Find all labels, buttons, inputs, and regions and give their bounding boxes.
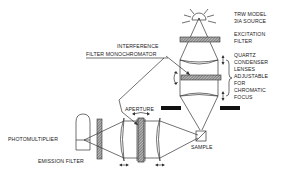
- interference-filter-lower-icon: [138, 118, 144, 162]
- excitation-filter-label: EXCITATION: [234, 31, 266, 37]
- tilt-arrow-icon: [174, 72, 176, 84]
- emission-filter-icon: [97, 119, 102, 159]
- brace-icon: [226, 60, 232, 96]
- lens-adjust-arrow-icon: [222, 55, 225, 101]
- source-label-2: 3IA SOURCE: [234, 18, 267, 24]
- excitation-filter-icon: [180, 37, 220, 42]
- photomultiplier-label: PHOTOMULTIPLIER: [8, 136, 58, 142]
- aperture-block-left-icon: [161, 106, 181, 110]
- interference-label-1: INTERFERENCE: [117, 43, 159, 49]
- lower-condenser-lens-icon: [180, 93, 218, 96]
- quartz-label-1: QUARTZ: [234, 52, 256, 58]
- quartz-label-4: ADJUSTABLE: [234, 73, 268, 79]
- quartz-label-6: CHROMATIC: [234, 87, 266, 93]
- filter-slide-arrow-icon: [132, 112, 150, 116]
- quartz-label-5: FOR: [234, 80, 245, 86]
- lens-adjust-arrow-icon: [119, 164, 129, 167]
- upper-condenser-lens-icon: [180, 60, 218, 64]
- quartz-label-2: CONDENSER: [234, 59, 268, 65]
- excitation-filter-label-2: FILTER: [234, 38, 252, 44]
- interference-filter-upper-icon: [181, 75, 221, 80]
- photomultiplier-icon: [76, 114, 90, 150]
- emission-lens-right-icon: [157, 118, 161, 161]
- quartz-label-3: LENSES: [234, 66, 256, 72]
- emission-lens-left-icon: [121, 118, 125, 161]
- source-label: TRW MODEL: [234, 11, 267, 17]
- optical-setup-diagram: TRW MODEL 3IA SOURCE EXCITATION FILTER Q…: [0, 0, 282, 176]
- lens-adjust-arrow-icon: [155, 164, 165, 167]
- aperture-label: APERTURE: [125, 106, 154, 112]
- aperture-block-right-icon: [220, 106, 240, 110]
- quartz-label-7: FOCUS: [234, 94, 253, 100]
- emission-filter-label: EMISSION FILTER: [38, 158, 84, 164]
- light-source-icon: [182, 9, 216, 23]
- interference-label-2: FILTER MONOCHROMATOR: [86, 51, 157, 57]
- sample-label: SAMPLE: [191, 144, 213, 150]
